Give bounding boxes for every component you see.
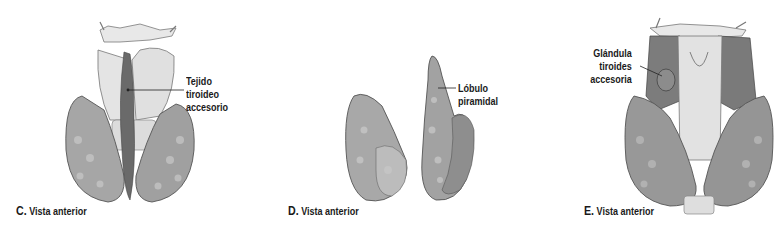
label-line: accesoria [590,73,632,86]
label-lobulo-piramidal: Lóbulo piramidal [458,82,498,108]
panel-d: Lóbulo piramidal D. Vista anterior [260,0,520,229]
label-line: tiroideo [186,88,228,101]
thyroid-illustration-c [0,0,260,229]
panel-letter: E. [584,203,594,218]
label-line: Glándula [590,47,632,60]
panel-letter: C. [16,203,27,218]
label-line: Tejido [186,75,228,88]
label-tejido-tiroideo-accesorio: Tejido tiroideo accesorio [186,75,228,114]
caption-text: Vista anterior [597,205,654,217]
label-line: Lóbulo [458,82,498,95]
thyroid-illustration-e [520,0,778,229]
caption-e: E. Vista anterior [584,203,654,218]
label-line: accesorio [186,101,228,114]
panel-letter: D. [288,203,299,218]
label-line: tiroides [590,60,632,73]
label-glandula-tiroides-accesoria: Glándula tiroides accesoria [590,47,632,86]
thyroid-illustration-d [260,0,520,229]
caption-d: D. Vista anterior [288,203,359,218]
panel-e: Glándula tiroides accesoria E. Vista ant… [520,0,778,229]
label-line: piramidal [458,95,498,108]
caption-c: C. Vista anterior [16,203,87,218]
panel-c: Tejido tiroideo accesorio C. Vista anter… [0,0,260,229]
caption-text: Vista anterior [301,205,358,217]
caption-text: Vista anterior [29,205,86,217]
